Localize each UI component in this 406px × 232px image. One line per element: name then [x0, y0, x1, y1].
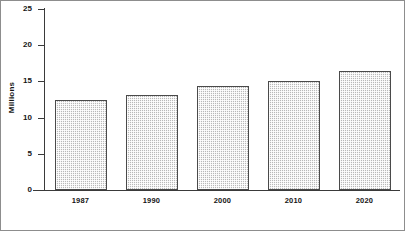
y-axis-tick	[38, 118, 45, 119]
bar-2000	[197, 86, 249, 190]
x-axis-tick-label: 2000	[187, 196, 258, 205]
y-axis-tick	[38, 190, 45, 191]
y-axis-tick	[38, 154, 45, 155]
bar-chart-figure: Millions 0510152025 19871990200020102020	[0, 0, 406, 232]
x-axis-tick-label: 1990	[116, 196, 187, 205]
x-axis-tick-label: 2010	[258, 196, 329, 205]
x-axis-tick-label: 1987	[45, 196, 116, 205]
x-axis-tick-label: 2020	[329, 196, 400, 205]
bar-2020	[339, 71, 391, 190]
y-axis-tick	[38, 45, 45, 46]
bar-2010	[268, 81, 320, 190]
y-axis-tick	[38, 9, 45, 10]
bar-1990	[126, 95, 178, 190]
bar-1987	[55, 100, 107, 190]
y-axis-tick	[38, 81, 45, 82]
bars-group: 19871990200020102020	[0, 0, 406, 232]
